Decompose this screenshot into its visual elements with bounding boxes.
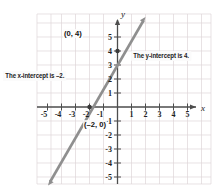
y-tick-label-1: 1 [108, 89, 112, 98]
x-tick-label-3: 3 [158, 110, 162, 119]
x-tick-label--5: -5 [41, 110, 48, 119]
point-label-x-intercept: (–2, 0) [83, 120, 107, 129]
y-tick-label--3: -3 [105, 145, 112, 154]
x-axis-label: x [200, 103, 205, 113]
plotted-line [50, 21, 144, 183]
y-tick-label--2: -2 [105, 131, 112, 140]
graph-canvas: x y -5 -4 -3 -2 -1 1 2 3 4 5 5 4 3 2 1 -… [0, 0, 216, 194]
callout-y-intercept: The y-intercept is 4. [131, 51, 191, 61]
coordinate-plane-figure: x y -5 -4 -3 -2 -1 1 2 3 4 5 5 4 3 2 1 -… [0, 0, 216, 194]
axes [37, 20, 196, 184]
y-tick-label-4: 4 [108, 47, 112, 56]
y-tick-label-3: 3 [108, 61, 112, 70]
point-marker-x-intercept [87, 105, 91, 109]
x-tick-label-4: 4 [172, 110, 176, 119]
callout-x-intercept: The x-intercept is –2. [3, 71, 67, 81]
x-tick-label-5: 5 [186, 110, 190, 119]
point-label-y-intercept: (0, 4) [63, 29, 83, 38]
x-tick-label-2: 2 [144, 110, 148, 119]
x-tick-label--1: -1 [97, 110, 104, 119]
line-arrowhead-top [140, 17, 146, 23]
point-marker-y-intercept [115, 49, 119, 53]
line-arrowhead-bottom [48, 180, 54, 186]
y-axis-label: y [120, 9, 125, 19]
x-axis-arrowhead [190, 104, 196, 109]
x-tick-label--2: -2 [83, 110, 90, 119]
y-tick-label--4: -4 [105, 159, 112, 168]
y-tick-label-2: 2 [108, 75, 112, 84]
x-tick-label--4: -4 [55, 110, 62, 119]
y-axis-arrowhead [115, 19, 120, 25]
x-tick-label--3: -3 [69, 110, 76, 119]
x-tick-label-1: 1 [130, 110, 134, 119]
y-tick-label-5: 5 [108, 33, 112, 42]
y-tick-label--5: -5 [105, 173, 112, 182]
